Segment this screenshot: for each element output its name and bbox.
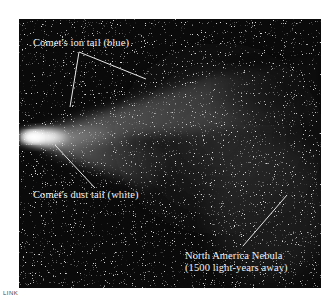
comet-photograph: Comet's ion tail (blue) Comet's dust tai… <box>19 19 321 288</box>
link-tag: LINK <box>3 290 18 296</box>
photo-canvas <box>19 19 321 288</box>
ion-tail-label: Comet's ion tail (blue) <box>33 37 129 48</box>
nebula-label-line2: (1500 light-years away) <box>185 262 288 273</box>
dust-tail-label: Comet's dust tail (white) <box>33 189 139 200</box>
nebula-label-line1: North America Nebula <box>185 250 283 261</box>
